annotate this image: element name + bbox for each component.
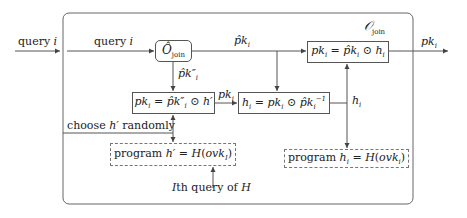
internal-query-label: query i [94, 36, 133, 47]
ith-query-of-h-label: Ith query of H [172, 182, 251, 193]
program-h-i-box: program hi = H(ovki) [284, 149, 409, 168]
edge-label-pk-middle: pki [218, 89, 234, 103]
container-label-o-join: 𝒪join [364, 19, 385, 36]
box-pk-equals-pkpp-odot-hprime: pki = p̂k″i ⊙ h′ [132, 92, 215, 114]
choose-h-prime-label: choose h′ randomly [67, 120, 175, 131]
edge-label-pk-hat: p̂ki [234, 35, 250, 49]
box-h-equals-pk-odot-pkhat-inverse: hi = pki ⊙ p̂ki−1 [238, 92, 330, 114]
edge-label-h-i: hi [352, 95, 361, 109]
external-query-label: query i [18, 36, 57, 47]
oracle-box-o-join-hat: Ôjoin [155, 40, 192, 62]
program-h-prime-box: program h′ = H(ovkI) [110, 143, 236, 166]
box-pk-equals-pkhat-odot-h: pki = p̂ki ⊙ hi [307, 41, 389, 63]
output-label-pk: pki [421, 36, 437, 50]
edge-label-pk-double-prime: p̂k″i [178, 68, 198, 82]
